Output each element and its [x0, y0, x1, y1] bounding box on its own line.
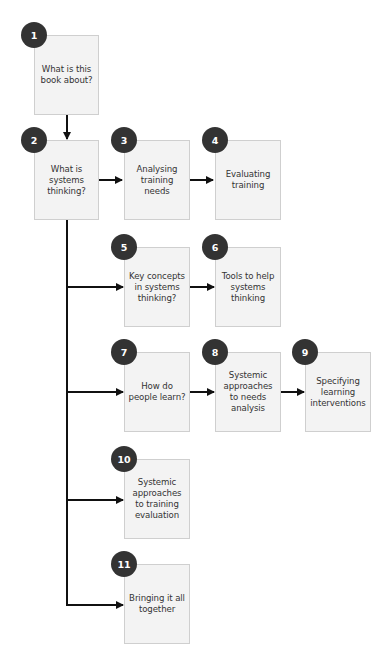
chapter-number-badge: 9	[292, 339, 318, 365]
chapter-label: What is systems thinking?	[38, 164, 95, 197]
chapter-label: Evaluating training	[219, 169, 277, 191]
chapter-flow-diagram: What is this book about? 1 What is syste…	[0, 0, 389, 660]
chapter-label: Tools to help systems thinking	[219, 271, 277, 304]
chapter-number-badge: 5	[111, 234, 137, 260]
chapter-number-badge: 10	[111, 446, 137, 472]
chapter-box-8: Systemic approaches to needs analysis	[215, 352, 281, 432]
chapter-label: Bringing it all together	[128, 593, 186, 615]
badge-number: 7	[121, 347, 128, 358]
badge-number: 8	[212, 347, 219, 358]
chapter-box-4: Evaluating training	[215, 140, 281, 220]
chapter-box-9: Specifying learning interventions	[305, 352, 371, 432]
badge-number: 4	[212, 135, 219, 146]
chapter-box-5: Key concepts in systems thinking?	[124, 247, 190, 327]
badge-number: 3	[121, 135, 128, 146]
badge-number: 6	[212, 242, 219, 253]
chapter-box-1: What is this book about?	[34, 35, 99, 115]
chapter-number-badge: 11	[111, 551, 137, 577]
chapter-label: How do people learn?	[128, 381, 186, 403]
chapter-box-7: How do people learn?	[124, 352, 190, 432]
chapter-box-2: What is systems thinking?	[34, 140, 99, 220]
chapter-label: Systemic approaches to needs analysis	[219, 370, 277, 414]
badge-number: 1	[31, 30, 38, 41]
chapter-number-badge: 7	[111, 339, 137, 365]
chapter-box-10: Systemic approaches to training evaluati…	[124, 459, 190, 539]
chapter-label: Key concepts in systems thinking?	[128, 271, 186, 304]
chapter-number-badge: 6	[202, 234, 228, 260]
chapter-number-badge: 1	[21, 22, 47, 48]
chapter-box-11: Bringing it all together	[124, 564, 190, 644]
chapter-label: What is this book about?	[38, 64, 95, 86]
chapter-number-badge: 2	[21, 127, 47, 153]
chapter-number-badge: 4	[202, 127, 228, 153]
chapter-number-badge: 8	[202, 339, 228, 365]
badge-number: 11	[117, 559, 130, 570]
chapter-label: Specifying learning interventions	[309, 376, 367, 409]
chapter-label: Analysing training needs	[128, 164, 186, 197]
badge-number: 10	[117, 454, 130, 465]
badge-number: 5	[121, 242, 128, 253]
chapter-label: Systemic approaches to training evaluati…	[128, 477, 186, 521]
chapter-box-3: Analysing training needs	[124, 140, 190, 220]
badge-number: 2	[31, 135, 38, 146]
chapter-box-6: Tools to help systems thinking	[215, 247, 281, 327]
chapter-number-badge: 3	[111, 127, 137, 153]
badge-number: 9	[302, 347, 309, 358]
